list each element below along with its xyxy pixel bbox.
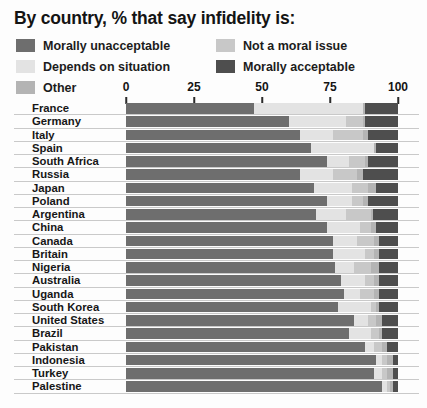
chart-row[interactable]: Russia [0,168,427,181]
bar-segment-depends-on-situation [300,130,333,141]
bar-segment-depends-on-situation [338,302,371,313]
legend-item: Not a moral issue [216,36,355,55]
stacked-bar[interactable] [126,222,398,233]
chart-row[interactable]: Italy [0,129,427,142]
bar-segment-morally-acceptable [379,289,398,300]
bar-segment-morally-acceptable [393,355,398,366]
stacked-bar[interactable] [126,130,398,141]
stacked-bar[interactable] [126,275,398,286]
bar-segment-morally-unacceptable [126,275,341,286]
stacked-bar[interactable] [126,355,398,366]
bar-segment-morally-unacceptable [126,130,300,141]
stacked-bar[interactable] [126,302,398,313]
bar-segment-depends-on-situation [254,103,363,114]
bar-segment-morally-acceptable [376,183,398,194]
stacked-bar[interactable] [126,289,398,300]
chart-row[interactable]: Argentina [0,208,427,221]
country-label: Spain [32,142,63,154]
country-label: Brazil [32,327,63,339]
stacked-bar[interactable] [126,368,398,379]
stacked-bar[interactable] [126,143,398,154]
bar-segment-depends-on-situation [374,368,382,379]
bar-segment-morally-unacceptable [126,355,376,366]
bar-segment-morally-unacceptable [126,342,365,353]
chart-row[interactable]: France [0,102,427,115]
stacked-bar[interactable] [126,342,398,353]
stacked-bar[interactable] [126,315,398,326]
axis-tick-label: 75 [323,80,336,94]
bar-segment-depends-on-situation [314,183,352,194]
stacked-bar[interactable] [126,169,398,180]
bar-segment-morally-unacceptable [126,236,333,247]
bar-segment-not-a-moral-issue [352,183,368,194]
stacked-bar[interactable] [126,116,398,127]
chart-row[interactable]: Australia [0,274,427,287]
country-label: Palestine [32,380,82,392]
chart-row[interactable]: Brazil [0,327,427,340]
stacked-bar[interactable] [126,183,398,194]
chart-row[interactable]: Uganda [0,288,427,301]
bar-segment-morally-unacceptable [126,368,374,379]
country-label: Turkey [32,367,68,379]
chart-row[interactable]: Canada [0,235,427,248]
country-label: Pakistan [32,341,78,353]
bar-segment-morally-acceptable [382,328,398,339]
bar-segment-morally-acceptable [376,143,398,154]
chart-row[interactable]: South Africa [0,155,427,168]
legend-item: Depends on situation [16,57,170,76]
stacked-bar[interactable] [126,196,398,207]
bar-segment-depends-on-situation [354,315,368,326]
chart-row[interactable]: Germany [0,115,427,128]
legend-column-right: Not a moral issue Morally acceptable [216,36,355,78]
bar-segment-morally-acceptable [379,262,398,273]
stacked-bar[interactable] [126,328,398,339]
stacked-bar[interactable] [126,249,398,260]
axis-tick-label: 0 [123,80,130,94]
bar-segment-morally-acceptable [365,103,398,114]
bar-segment-not-a-moral-issue [333,130,363,141]
chart-container: By country, % that say infidelity is: Mo… [0,0,427,408]
chart-row[interactable]: Turkey [0,367,427,380]
legend-label: Morally unacceptable [43,39,170,53]
bar-segment-morally-unacceptable [126,315,354,326]
chart-row[interactable]: Palestine [0,380,427,393]
chart-row[interactable]: Britain [0,248,427,261]
axis-tick-label: 25 [187,80,200,94]
bar-segment-not-a-moral-issue [371,328,379,339]
chart-row[interactable]: China [0,221,427,234]
stacked-bar[interactable] [126,156,398,167]
legend-label: Morally acceptable [243,60,355,74]
chart-row[interactable]: Japan [0,182,427,195]
legend-swatch-morally-unacceptable [16,39,35,52]
chart-row[interactable]: Pakistan [0,341,427,354]
country-label: Argentina [32,208,85,220]
country-label: Uganda [32,288,73,300]
chart-row[interactable]: United States [0,314,427,327]
chart-row[interactable]: Spain [0,142,427,155]
stacked-bar[interactable] [126,262,398,273]
bar-segment-not-a-moral-issue [365,249,373,260]
legend-swatch-depends-on-situation [16,60,35,73]
stacked-bar[interactable] [126,209,398,220]
bar-segment-morally-acceptable [363,169,398,180]
bar-segment-not-a-moral-issue [374,342,382,353]
stacked-bar[interactable] [126,103,398,114]
bar-segment-morally-acceptable [393,368,398,379]
chart-row[interactable]: South Korea [0,301,427,314]
bar-segment-morally-unacceptable [126,209,316,220]
chart-row[interactable]: Poland [0,195,427,208]
bar-segment-not-a-moral-issue [354,262,370,273]
bar-segment-depends-on-situation [333,236,357,247]
bar-segment-morally-unacceptable [126,103,254,114]
country-label: Australia [32,274,80,286]
stacked-bar[interactable] [126,236,398,247]
bar-segment-morally-unacceptable [126,169,300,180]
chart-row[interactable]: Indonesia [0,354,427,367]
bar-segment-not-a-moral-issue [357,236,373,247]
bar-segment-morally-unacceptable [126,196,327,207]
chart-row[interactable]: Nigeria [0,261,427,274]
bar-segment-morally-unacceptable [126,156,327,167]
stacked-bar[interactable] [126,381,398,392]
bar-segment-morally-acceptable [368,196,398,207]
country-label: Russia [32,168,69,180]
